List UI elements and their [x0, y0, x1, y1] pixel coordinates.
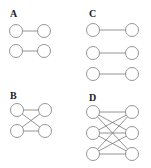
- panel-d-label: D: [89, 92, 96, 103]
- node-circle: [39, 104, 52, 117]
- node-circle: [126, 148, 139, 161]
- node-circle: [126, 47, 139, 60]
- node-circle: [11, 104, 24, 117]
- node-circle: [11, 125, 24, 138]
- node-circle: [87, 68, 100, 81]
- node-circle: [87, 127, 100, 140]
- node-circle: [126, 127, 139, 140]
- node-circle: [10, 45, 23, 58]
- node-circle: [38, 45, 51, 58]
- panel-b-label: B: [10, 90, 17, 101]
- node-circle: [87, 148, 100, 161]
- panel-c-label: C: [89, 8, 96, 19]
- panel-c-nodes: [87, 24, 139, 81]
- panel-c: C: [87, 8, 139, 81]
- node-circle: [10, 25, 23, 38]
- node-circle: [87, 47, 100, 60]
- panel-a-nodes: [10, 25, 51, 58]
- node-circle: [126, 106, 139, 119]
- node-circle: [126, 68, 139, 81]
- panel-d: D: [87, 92, 139, 161]
- network-diagram: A C B D: [0, 0, 151, 168]
- node-circle: [87, 106, 100, 119]
- panel-b: B: [10, 90, 52, 138]
- panel-a-label: A: [10, 8, 18, 19]
- node-circle: [126, 24, 139, 37]
- node-circle: [38, 25, 51, 38]
- node-circle: [39, 125, 52, 138]
- panel-a: A: [10, 8, 51, 58]
- node-circle: [87, 24, 100, 37]
